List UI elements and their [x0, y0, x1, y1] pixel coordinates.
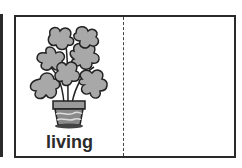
word-card: living	[14, 15, 236, 158]
potted-plant-icon	[26, 21, 111, 129]
adjacent-card-edge	[0, 14, 3, 157]
blank-cell	[124, 17, 234, 156]
word-label: living	[16, 132, 123, 153]
